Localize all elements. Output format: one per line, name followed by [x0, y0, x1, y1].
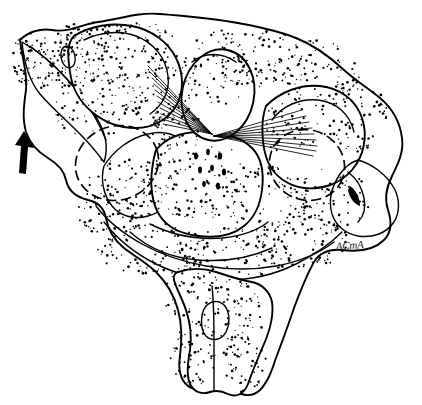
- stipple-dot: [104, 51, 106, 53]
- stipple-dot: [235, 330, 236, 331]
- stipple-dot: [132, 87, 134, 89]
- stipple-dot: [101, 104, 103, 106]
- stipple-dot: [143, 181, 145, 183]
- stipple-dot: [179, 242, 181, 244]
- stipple-dot: [236, 355, 239, 358]
- stipple-dot: [135, 97, 137, 99]
- stipple-dot: [220, 85, 222, 87]
- stipple-dot: [230, 346, 233, 349]
- stipple-dot: [356, 150, 358, 152]
- stipple-dot: [26, 60, 28, 62]
- stipple-dot: [247, 176, 249, 178]
- stipple-dot: [246, 285, 248, 287]
- stipple-dot: [268, 185, 270, 187]
- stipple-dot: [256, 173, 259, 176]
- stipple-dot: [346, 180, 347, 181]
- stipple-dot: [153, 93, 155, 95]
- stipple-dot: [314, 214, 316, 216]
- stipple-dot: [195, 234, 197, 236]
- stipple-dot: [158, 67, 161, 70]
- stipple-dot: [182, 258, 185, 261]
- stipple-dot: [213, 250, 215, 252]
- stipple-dot: [263, 241, 265, 243]
- stipple-dot: [151, 200, 153, 202]
- stipple-dot: [79, 97, 80, 98]
- stipple-dot: [184, 361, 186, 363]
- stipple-dot: [278, 58, 280, 60]
- stipple-dot: [249, 320, 251, 322]
- stipple-dot: [262, 243, 263, 244]
- stipple-dot: [80, 89, 82, 91]
- stipple-dot: [107, 184, 110, 187]
- stipple-dot: [141, 92, 143, 94]
- stipple-dot: [104, 25, 106, 27]
- stipple-dot: [207, 319, 209, 321]
- stipple-dot: [195, 39, 198, 42]
- stipple-dot: [73, 29, 75, 31]
- stipple-dot: [139, 95, 140, 96]
- stipple-dot: [211, 265, 213, 267]
- stipple-dot: [299, 145, 300, 146]
- stipple-dot: [192, 72, 194, 74]
- stipple-dot: [338, 129, 340, 131]
- stipple-dot: [234, 189, 237, 192]
- stipple-dot: [227, 317, 229, 319]
- signature-text: ACmA: [334, 238, 364, 252]
- stipple-dot: [336, 134, 337, 135]
- stipple-dot: [181, 272, 183, 274]
- stipple-dot: [201, 206, 203, 208]
- stipple-dot: [119, 239, 120, 240]
- stipple-dot: [113, 227, 116, 230]
- stipple-dot: [162, 257, 164, 259]
- stipple-dot: [63, 53, 66, 56]
- stipple-dot: [222, 46, 224, 48]
- stipple-dot: [242, 229, 243, 230]
- stipple-dot: [16, 73, 18, 75]
- stipple-dot: [347, 212, 349, 214]
- stipple-dot: [144, 50, 146, 52]
- stipple-dot: [321, 108, 323, 110]
- stipple-dot: [226, 177, 227, 178]
- stipple-dot: [177, 208, 180, 211]
- stipple-dot: [333, 223, 334, 224]
- stipple-dot: [303, 143, 305, 145]
- stipple-dot: [61, 35, 62, 36]
- stipple-dot: [385, 107, 387, 109]
- stipple-dot: [116, 77, 118, 79]
- stipple-dot: [121, 105, 123, 107]
- stipple-dot: [187, 382, 188, 383]
- stipple-dot: [92, 130, 93, 131]
- stipple-dot: [214, 355, 215, 356]
- stipple-dot: [208, 352, 210, 354]
- stipple-dot: [167, 144, 169, 146]
- stipple-dot: [38, 50, 40, 52]
- stipple-dot: [230, 216, 232, 218]
- stipple-dot: [259, 132, 260, 133]
- stipple-dot: [181, 281, 183, 283]
- stipple-dot: [157, 200, 159, 202]
- stipple-dot: [217, 287, 219, 289]
- stipple-dot: [224, 74, 226, 76]
- stipple-dot: [63, 49, 66, 52]
- stipple-dot: [107, 165, 109, 167]
- stipple-dot: [268, 251, 270, 253]
- stipple-dot: [23, 72, 26, 75]
- stipple-dot: [271, 222, 273, 224]
- stipple-dot: [185, 100, 186, 101]
- stipple-dot: [129, 228, 130, 229]
- stipple-dot: [292, 228, 295, 231]
- stipple-dot: [310, 144, 311, 145]
- stipple-dot: [152, 116, 155, 119]
- stipple-dot: [339, 186, 341, 188]
- stipple-dot: [242, 390, 244, 392]
- stipple-dot: [281, 80, 283, 82]
- stipple-dot: [333, 133, 336, 136]
- stipple-dot: [67, 26, 70, 29]
- stipple-dot: [245, 259, 247, 261]
- stipple-dot: [49, 62, 51, 64]
- stipple-dot: [279, 224, 280, 225]
- stipple-dot: [171, 118, 173, 120]
- stipple-dot: [294, 232, 297, 235]
- stipple-dot: [286, 230, 288, 232]
- stipple-dot: [184, 334, 186, 336]
